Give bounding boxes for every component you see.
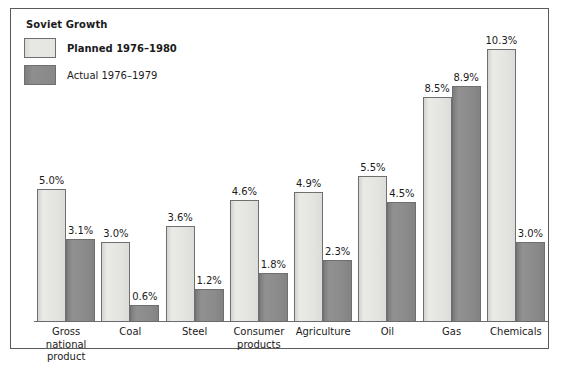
bar-group: 4.9%2.3%Agriculture <box>291 23 355 321</box>
bar-group: 5.5%4.5%Oil <box>355 23 419 321</box>
bar <box>230 200 259 321</box>
bar-column: 10.3% <box>487 35 516 321</box>
plot-area: 5.0%3.1%Grossnationalproduct3.0%0.6%Coal… <box>24 23 538 348</box>
bar-column: 3.1% <box>66 225 95 321</box>
bar-value-label: 4.9% <box>296 178 321 190</box>
bar-value-label: 5.5% <box>360 162 385 174</box>
bar-column: 3.6% <box>166 212 195 321</box>
bar <box>487 49 516 321</box>
bar <box>294 192 323 321</box>
bar-pair: 8.5%8.9% <box>420 23 484 321</box>
bar-pair: 5.0%3.1% <box>34 23 98 321</box>
bar-group: 3.6%1.2%Steel <box>163 23 227 321</box>
bar-pair: 4.6%1.8% <box>227 23 291 321</box>
bar <box>130 305 159 321</box>
bar <box>101 242 130 321</box>
bar <box>323 260 352 321</box>
bar <box>516 242 545 321</box>
bar-value-label: 3.0% <box>103 228 128 240</box>
bar-column: 8.9% <box>452 72 481 321</box>
bar <box>358 176 387 321</box>
bar-pair: 10.3%3.0% <box>484 23 548 321</box>
bar <box>166 226 195 321</box>
bar-group: 10.3%3.0%Chemicals <box>484 23 548 321</box>
bar <box>423 97 452 321</box>
bar-column: 3.0% <box>101 228 130 321</box>
bar-column: 4.6% <box>230 186 259 321</box>
bar-column: 4.9% <box>294 178 323 321</box>
bar-value-label: 0.6% <box>132 291 157 303</box>
bar <box>37 189 66 321</box>
bar-value-label: 4.6% <box>232 186 257 198</box>
bar-group: 5.0%3.1%Grossnationalproduct <box>34 23 98 321</box>
bar <box>259 273 288 321</box>
bar-pair: 3.0%0.6% <box>98 23 162 321</box>
bar <box>387 202 416 321</box>
bar-value-label: 4.5% <box>389 188 414 200</box>
bar-value-label: 3.0% <box>518 228 543 240</box>
bar-value-label: 3.1% <box>68 225 93 237</box>
bar <box>452 86 481 321</box>
bar <box>195 289 224 321</box>
bar-value-label: 2.3% <box>325 246 350 258</box>
chart-frame: Soviet Growth Planned 1976–1980 Actual 1… <box>10 8 549 349</box>
bar-value-label: 8.9% <box>453 72 478 84</box>
bar-groups: 5.0%3.1%Grossnationalproduct3.0%0.6%Coal… <box>34 23 548 321</box>
bar-column: 1.2% <box>195 275 224 321</box>
bar-value-label: 8.5% <box>424 83 449 95</box>
x-axis-baseline <box>34 321 548 322</box>
bar-value-label: 1.8% <box>261 259 286 271</box>
bar-column: 5.5% <box>358 162 387 321</box>
bar-column: 4.5% <box>387 188 416 321</box>
bar-group: 8.5%8.9%Gas <box>420 23 484 321</box>
bar-pair: 3.6%1.2% <box>163 23 227 321</box>
bar-value-label: 3.6% <box>167 212 192 224</box>
bar-group: 4.6%1.8%Consumerproducts <box>227 23 291 321</box>
bar <box>66 239 95 321</box>
bar-column: 8.5% <box>423 83 452 321</box>
bar-column: 5.0% <box>37 175 66 321</box>
bar-column: 3.0% <box>516 228 545 321</box>
bar-value-label: 1.2% <box>196 275 221 287</box>
bar-value-label: 5.0% <box>39 175 64 187</box>
bar-column: 0.6% <box>130 291 159 321</box>
bar-column: 2.3% <box>323 246 352 321</box>
bar-pair: 5.5%4.5% <box>355 23 419 321</box>
bar-group: 3.0%0.6%Coal <box>98 23 162 321</box>
category-label: Chemicals <box>476 326 556 339</box>
bar-value-label: 10.3% <box>485 35 517 47</box>
bar-column: 1.8% <box>259 259 288 321</box>
bar-pair: 4.9%2.3% <box>291 23 355 321</box>
